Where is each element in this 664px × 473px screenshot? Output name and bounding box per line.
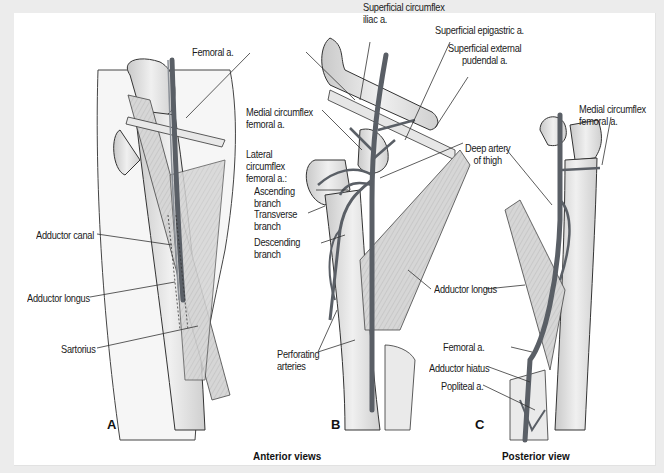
label-adductor-hiatus: Adductor hiatus (429, 362, 489, 374)
label-adductor-canal: Adductor canal (36, 229, 94, 241)
label-superficial-external-pudendal: Superficial external pudendal a. (448, 42, 521, 66)
panel-letter-a: A (107, 417, 116, 432)
caption-posterior-view: Posterior view (502, 450, 570, 462)
label-adductor-longus-a: Adductor longus (27, 292, 90, 304)
panel-letter-c: C (475, 417, 484, 432)
label-popliteal-artery: Popliteal a. (441, 380, 484, 392)
panel-a-illustration (97, 59, 235, 440)
label-medial-circumflex-femoral-b: Medial circumflex femoral a. (246, 106, 313, 130)
label-femoral-artery-c: Femoral a. (443, 341, 485, 353)
label-medial-circumflex-femoral-c: Medial circumflex femoral a. (579, 103, 646, 127)
label-transverse-branch: Transverse branch (254, 208, 297, 232)
panel-letter-b: B (331, 417, 340, 432)
label-adductor-longus-b: Adductor longus (434, 283, 497, 295)
label-ascending-branch: Ascending branch (254, 185, 295, 209)
label-perforating-arteries: Perforating arteries (277, 348, 319, 372)
label-sartorius: Sartorius (61, 343, 96, 355)
label-descending-branch: Descending branch (254, 236, 300, 260)
anatomy-illustration (0, 0, 664, 473)
label-superficial-circumflex-iliac: Superficial circumflex iliac a. (363, 1, 444, 25)
panel-c-illustration (505, 115, 601, 440)
label-lateral-circumflex-femoral: Lateral circumflex femoral a.: (246, 148, 287, 184)
label-femoral-artery-a: Femoral a. (192, 46, 234, 58)
label-deep-artery-of-thigh: Deep artery of thigh (465, 142, 510, 166)
caption-anterior-views: Anterior views (253, 450, 321, 462)
label-superficial-epigastric: Superficial epigastric a. (435, 24, 524, 36)
